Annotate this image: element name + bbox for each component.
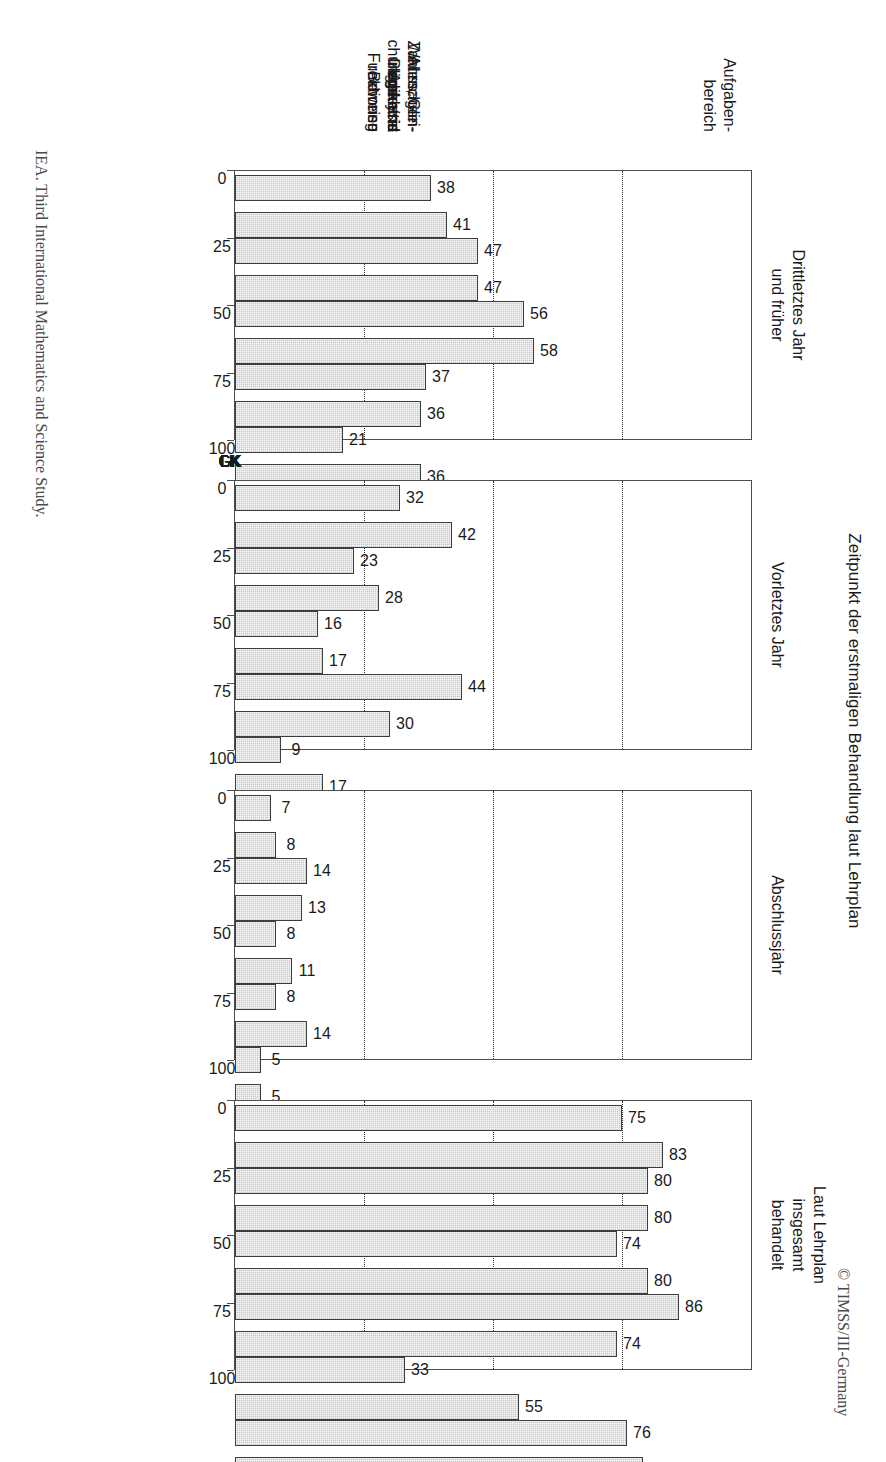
- bar-gk: 23: [235, 548, 751, 574]
- bar: [235, 895, 302, 921]
- category-label-line: Insgesamt: [383, 58, 403, 132]
- bar-lk: 79: [235, 1457, 751, 1462]
- panel-title-line: Abschlussjahr: [767, 770, 788, 1080]
- bar: [235, 737, 281, 763]
- panel-3: Abschlussjahr781413811814551011025507510…: [140, 770, 830, 1080]
- bar-value-label: 16: [324, 615, 342, 633]
- plot-area: 384147475658373621364547: [234, 170, 752, 440]
- axis-tick-label: 25: [213, 548, 231, 566]
- bar: [235, 301, 524, 327]
- bar-value-label: 44: [468, 678, 486, 696]
- category-label: Insgesamt: [383, 58, 403, 132]
- bar-value-label: 8: [287, 925, 296, 943]
- bar: [235, 1394, 519, 1420]
- bar: [235, 1142, 663, 1168]
- bar-lk: 8: [235, 832, 751, 858]
- bar-gk: 9: [235, 737, 751, 763]
- bar: [235, 611, 318, 637]
- bar-value-label: 56: [530, 305, 548, 323]
- bar-value-label: 8: [287, 836, 296, 854]
- category-label-line: Aussagen-: [403, 56, 423, 133]
- bar-gk: 7: [235, 795, 751, 821]
- bar-group: 1617: [235, 611, 751, 674]
- bar-lk: 42: [235, 522, 751, 548]
- bar-group: 1413: [235, 858, 751, 921]
- bar: [235, 548, 354, 574]
- panel-title-line: Laut Lehrplan: [809, 1080, 830, 1390]
- panel-4: Laut Lehrplaninsgesamtbehandelt758380807…: [140, 1080, 830, 1390]
- bar-group: 3841: [235, 175, 751, 238]
- plot-area: 781413811814551011: [234, 790, 752, 1060]
- bar-value-label: 74: [623, 1335, 641, 1353]
- bar: [235, 427, 343, 453]
- bar-value-label: 55: [525, 1398, 543, 1416]
- bar-lk: 80: [235, 1268, 751, 1294]
- bar-gk: 5: [235, 1047, 751, 1073]
- bar-value-label: 80: [654, 1172, 672, 1190]
- subgroup-label-row: GKLKGKLKGKLKGKLKGKLKGKLK: [190, 150, 230, 460]
- bar: [235, 485, 400, 511]
- bar: [235, 1268, 648, 1294]
- bar-gk: 8: [235, 984, 751, 1010]
- panel-row: Drittletztes Jahrund früher3841474756583…: [140, 150, 830, 1390]
- bar: [235, 921, 276, 947]
- bar-value-label: 37: [432, 368, 450, 386]
- axis-tick-label: 0: [218, 1100, 227, 1118]
- bar: [235, 1294, 679, 1320]
- bar: [235, 401, 421, 427]
- bar-gk: 80: [235, 1168, 751, 1194]
- bar-group: 7480: [235, 1231, 751, 1294]
- bar-lk: 30: [235, 711, 751, 737]
- bar: [235, 958, 292, 984]
- bar-value-label: 80: [654, 1272, 672, 1290]
- bar: [235, 674, 462, 700]
- bar: [235, 1457, 643, 1462]
- bar-gk: 44: [235, 674, 751, 700]
- bar-value-label: 42: [458, 526, 476, 544]
- bar-group: 3242: [235, 485, 751, 548]
- bar-value-label: 80: [654, 1209, 672, 1227]
- category-label-line: Beweise: [363, 56, 383, 133]
- bar: [235, 795, 271, 821]
- bar: [235, 1331, 617, 1357]
- bar-lk: 36: [235, 401, 751, 427]
- bar: [235, 1168, 648, 1194]
- panel-title-line: Drittletztes Jahr: [788, 150, 809, 460]
- axis-tick: [227, 1100, 234, 1101]
- bar-lk: 55: [235, 1394, 751, 1420]
- bar-value-label: 9: [292, 741, 301, 759]
- panel-title-line: und früher: [767, 150, 788, 460]
- bar-gk: 8: [235, 921, 751, 947]
- bar-value-label: 32: [406, 489, 424, 507]
- bar-group: 8674: [235, 1294, 751, 1357]
- bar-value-label: 83: [669, 1146, 687, 1164]
- category-label-column: Aufgaben-bereichAnalysisGeometrieZahlen,…: [0, 0, 886, 150]
- axis-tick-label: 100: [209, 1060, 236, 1078]
- axis-tick-label: 25: [213, 1168, 231, 1186]
- bar-gk: 37: [235, 364, 751, 390]
- bar: [235, 1205, 648, 1231]
- bar-value-label: 86: [685, 1298, 703, 1316]
- bar-group: 78: [235, 795, 751, 858]
- axis-tick-label: 0: [218, 480, 227, 498]
- panel-title: Laut Lehrplaninsgesamtbehandelt: [767, 1080, 830, 1390]
- bar-value-label: 14: [313, 1025, 331, 1043]
- panel-title-line: Vorletztes Jahr: [767, 460, 788, 770]
- bar: [235, 338, 534, 364]
- axis-tick-label: 75: [213, 993, 231, 1011]
- axis-tick-label: 0: [218, 790, 227, 808]
- bar-value-label: 5: [271, 1051, 280, 1069]
- bar-group: 7679: [235, 1420, 751, 1462]
- bar-value-label: 47: [484, 242, 502, 260]
- panel-title: Drittletztes Jahrund früher: [767, 150, 809, 460]
- bar-lk: 80: [235, 1205, 751, 1231]
- category-column-header-line: bereich: [699, 58, 719, 132]
- bar: [235, 522, 452, 548]
- figure-title: Zeitpunkt der erstmaligen Behandlung lau…: [844, 0, 864, 1462]
- credit-timss: © TIMSS/III-Germany: [834, 1268, 852, 1416]
- bar: [235, 984, 276, 1010]
- bar-lk: 58: [235, 338, 751, 364]
- bar-gk: 14: [235, 858, 751, 884]
- bar-gk: 75: [235, 1105, 751, 1131]
- bar-group: 4430: [235, 674, 751, 737]
